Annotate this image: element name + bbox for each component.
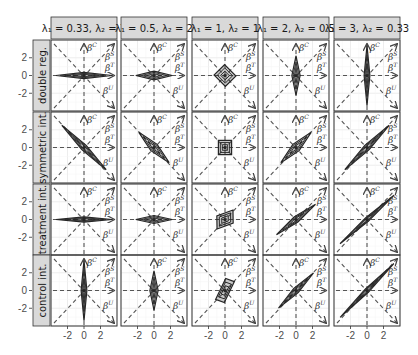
panel: βCβSβTβU xyxy=(334,40,400,111)
y-tick-label: -2 xyxy=(18,88,27,99)
x-tick-label: 2 xyxy=(98,330,104,341)
x-tick-label: -2 xyxy=(346,330,355,341)
y-tick-label: 0 xyxy=(21,70,27,81)
panel: βCβSβTβU xyxy=(192,255,258,326)
y-axes: -202-202-202-202 xyxy=(18,52,32,314)
x-tick-label: 0 xyxy=(151,330,157,341)
panel: βCβSβTβU xyxy=(121,40,187,111)
x-tick-label: 2 xyxy=(381,330,387,341)
x-tick-label: 2 xyxy=(168,330,174,341)
panel: βCβSβTβU xyxy=(51,184,117,255)
x-axes: -202-202-202-202-202 xyxy=(63,326,387,341)
y-tick-label: 2 xyxy=(21,196,27,207)
column-strip-label: λ₁ = 2, λ₂ = 0.5 xyxy=(257,23,335,34)
y-tick-label: 2 xyxy=(21,124,27,135)
column-strip-label: λ₁ = 1, λ₂ = 1 xyxy=(191,23,259,34)
row-strip: control int. xyxy=(33,255,50,326)
panel: βCβSβTβU xyxy=(51,112,117,183)
row-strip-label: double reg. xyxy=(37,47,48,104)
column-strip: λ₁ = 2, λ₂ = 0.5 xyxy=(257,17,335,39)
column-strips: λ₁ = 0.33, λ₂ = 3λ₁ = 0.5, λ₂ = 2λ₁ = 1,… xyxy=(42,17,409,39)
row-strips: double reg.symmetric int.treatment int.c… xyxy=(33,40,50,326)
panels: βCβSβTβUβCβSβTβUβCβSβTβUβCβSβTβUβCβSβTβU… xyxy=(51,40,400,326)
panel: βCβSβTβU xyxy=(334,255,400,326)
panel: βCβSβTβU xyxy=(263,184,329,255)
faceted-contour-chart: λ₁ = 0.33, λ₂ = 3λ₁ = 0.5, λ₂ = 2λ₁ = 1,… xyxy=(0,0,418,355)
panel: βCβSβTβU xyxy=(263,40,329,111)
panel: βCβSβTβU xyxy=(192,184,258,255)
x-tick-label: -2 xyxy=(204,330,213,341)
row-strip: double reg. xyxy=(33,40,50,111)
column-strip: λ₁ = 0.5, λ₂ = 2 xyxy=(115,17,193,39)
y-tick-label: -2 xyxy=(18,232,27,243)
panel: βCβSβTβU xyxy=(51,40,117,111)
panel: βCβSβTβU xyxy=(334,112,400,183)
column-strip-label: λ₁ = 0.33, λ₂ = 3 xyxy=(42,23,126,34)
panel: βCβSβTβU xyxy=(121,112,187,183)
y-tick-label: 0 xyxy=(21,142,27,153)
panel: βCβSβTβU xyxy=(263,255,329,326)
column-strip-label: λ₁ = 0.5, λ₂ = 2 xyxy=(115,23,193,34)
panel: βCβSβTβU xyxy=(334,184,400,255)
x-tick-label: 2 xyxy=(310,330,316,341)
panel: βCβSβTβU xyxy=(263,112,329,183)
x-tick-label: -2 xyxy=(275,330,284,341)
row-strip-label: symmetric int. xyxy=(37,111,48,183)
row-strip: symmetric int. xyxy=(33,111,50,183)
x-tick-label: -2 xyxy=(133,330,142,341)
y-tick-label: -2 xyxy=(18,303,27,314)
y-tick-label: -2 xyxy=(18,160,27,171)
column-strip-label: λ₁ = 3, λ₂ = 0.33 xyxy=(325,23,409,34)
y-tick-label: 2 xyxy=(21,52,27,63)
y-tick-label: 0 xyxy=(21,285,27,296)
row-strip: treatment int. xyxy=(33,184,50,255)
x-tick-label: 0 xyxy=(222,330,228,341)
y-tick-label: 0 xyxy=(21,214,27,225)
panel: βCβSβTβU xyxy=(121,255,187,326)
panel: βCβSβTβU xyxy=(192,40,258,111)
column-strip: λ₁ = 3, λ₂ = 0.33 xyxy=(325,17,409,39)
row-strip-label: treatment int. xyxy=(37,185,48,255)
x-tick-label: 0 xyxy=(293,330,299,341)
x-tick-label: 2 xyxy=(239,330,245,341)
panel: βCβSβTβU xyxy=(192,112,258,183)
panel: βCβSβTβU xyxy=(121,184,187,255)
column-strip: λ₁ = 0.33, λ₂ = 3 xyxy=(42,17,126,39)
x-tick-label: -2 xyxy=(63,330,72,341)
x-tick-label: 0 xyxy=(81,330,87,341)
y-tick-label: 2 xyxy=(21,267,27,278)
column-strip: λ₁ = 1, λ₂ = 1 xyxy=(191,17,259,39)
row-strip-label: control int. xyxy=(37,263,48,317)
panel: βCβSβTβU xyxy=(51,255,117,326)
x-tick-label: 0 xyxy=(364,330,370,341)
